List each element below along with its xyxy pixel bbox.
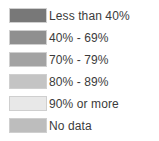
swatch-no-data-icon (9, 118, 47, 133)
legend-label-40-69: 40% - 69% (49, 27, 109, 49)
map-legend: Less than 40% 40% - 69% 70% - 79% 80% - … (0, 0, 159, 141)
swatch-40-69-icon (9, 30, 47, 45)
legend-item-70-79: 70% - 79% (0, 49, 159, 71)
swatch-less-than-40-icon (9, 8, 47, 23)
legend-label-less-than-40: Less than 40% (49, 5, 130, 27)
legend-label-no-data: No data (49, 115, 92, 137)
legend-item-40-69: 40% - 69% (0, 27, 159, 49)
legend-item-no-data: No data (0, 115, 159, 137)
legend-item-80-89: 80% - 89% (0, 71, 159, 93)
legend-label-70-79: 70% - 79% (49, 49, 109, 71)
swatch-90-or-more-icon (9, 96, 47, 111)
legend-label-80-89: 80% - 89% (49, 71, 109, 93)
legend-item-less-than-40: Less than 40% (0, 5, 159, 27)
legend-item-90-or-more: 90% or more (0, 93, 159, 115)
legend-label-90-or-more: 90% or more (49, 93, 119, 115)
swatch-70-79-icon (9, 52, 47, 67)
swatch-80-89-icon (9, 74, 47, 89)
